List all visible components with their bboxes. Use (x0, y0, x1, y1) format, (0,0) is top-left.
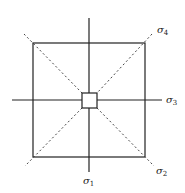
label-sigma2: σ2 (156, 165, 167, 178)
label-sigma4: σ4 (157, 24, 169, 37)
label-sigma3: σ3 (166, 94, 177, 107)
label-sigma1: σ1 (83, 175, 94, 188)
center-square (82, 93, 97, 108)
stress-diagram: σ4 σ3 σ2 σ1 (0, 0, 185, 193)
